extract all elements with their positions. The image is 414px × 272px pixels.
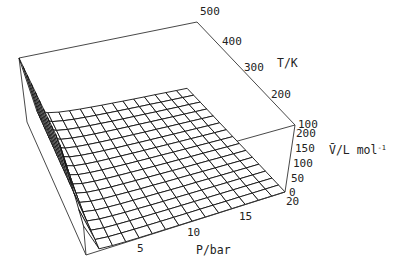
v-axis-title-sup: -1 [377,144,385,152]
t-tick-300: 300 [244,62,264,73]
v-tick-150: 150 [295,143,315,154]
t-tick-500: 500 [200,6,220,17]
t-tick-200: 200 [271,89,291,100]
box-edge [19,22,197,58]
p-tick-20: 20 [286,196,299,207]
p-axis-title: P/bar [196,245,231,257]
t-axis-title: T/K [277,58,298,70]
p-tick-10: 10 [187,227,200,238]
v-axis-title-text: V̄/L mol [329,143,377,157]
v-tick-100: 100 [293,158,313,169]
t-tick-400: 400 [222,36,242,47]
v-tick-200: 200 [296,128,316,139]
v-tick-50: 50 [291,173,304,184]
v-axis-title: V̄/L mol-1 [329,145,386,157]
surface-plot [0,0,414,272]
p-tick-15: 15 [239,211,252,222]
p-tick-5: 5 [137,243,144,254]
